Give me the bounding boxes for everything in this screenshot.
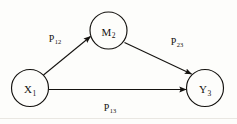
node-subscript-y3: 3 [207,89,211,98]
node-symbol-y3: Y [199,83,207,95]
path-label-p12: P12 [49,33,61,44]
node-label-x1: X1 [24,83,36,95]
node-label-m2: M2 [102,26,116,38]
path-diagram-figure: X1 M2 Y3 P12 P23 P13 [0,0,237,124]
diagram-canvas [0,0,237,124]
node-subscript-x1: 1 [32,89,36,98]
path-symbol-p13: P [104,102,110,113]
path-label-p13: P13 [104,102,116,113]
scan-artifact-line [0,118,237,119]
path-subscript-p23: 23 [177,41,184,48]
path-symbol-p23: P [171,36,177,47]
path-symbol-p12: P [49,33,55,44]
node-subscript-m2: 2 [112,31,116,40]
path-subscript-p13: 13 [110,107,117,114]
path-label-p23: P23 [171,36,183,47]
node-symbol-x1: X [24,83,32,95]
path-subscript-p12: 12 [55,38,62,45]
node-label-y3: Y3 [199,83,211,95]
node-symbol-m2: M [102,26,112,38]
